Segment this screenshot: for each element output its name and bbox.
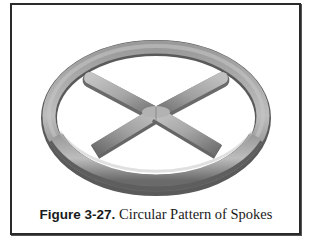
figure-title: Circular Pattern of Spokes [115, 206, 272, 222]
figure-label: Figure 3-27. [40, 207, 116, 222]
spokes [90, 78, 222, 152]
figure-caption: Figure 3-27. Circular Pattern of Spokes [0, 206, 312, 223]
